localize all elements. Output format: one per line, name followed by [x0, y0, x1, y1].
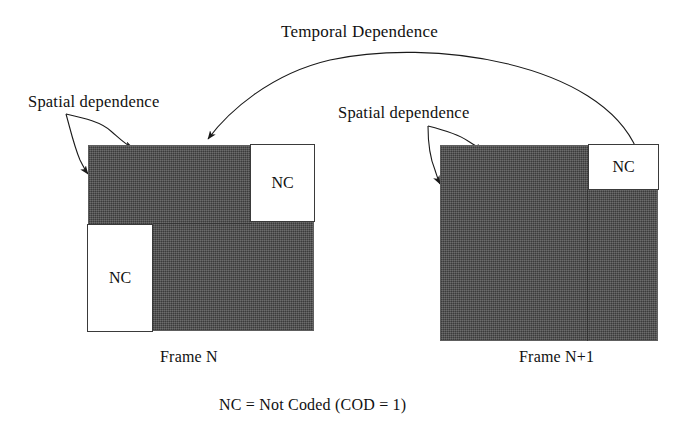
spatial-dependence-left-side-arrow	[66, 114, 88, 174]
frame-n-not-coded-block-bottom-left: NC	[87, 224, 153, 332]
frame-n-plus-1-caption: Frame N+1	[519, 348, 594, 366]
frame-n-horizontal-divider	[153, 223, 251, 224]
spatial-dependence-label-left: Spatial dependence	[28, 92, 159, 112]
temporal-dependence-arrow	[208, 52, 637, 150]
spatial-dependence-left-top-arrow	[66, 114, 133, 148]
spatial-dependence-right-side-arrow	[428, 126, 440, 184]
temporal-dependence-label: Temporal Dependence	[281, 22, 438, 42]
frame-n-block-grid: NC NC	[88, 145, 314, 331]
legend-caption: NC = Not Coded (COD = 1)	[219, 396, 406, 414]
frame-n-plus-1-block-grid: NC	[440, 145, 658, 341]
frame-n-not-coded-block-top-right: NC	[250, 144, 315, 222]
figure-canvas: Temporal Dependence Spatial dependence S…	[0, 0, 688, 434]
frame-n-plus-1-vertical-divider	[587, 190, 588, 341]
spatial-dependence-label-right: Spatial dependence	[338, 103, 469, 123]
frame-n-plus-1-not-coded-block-top-right: NC	[588, 144, 659, 190]
frame-n-caption: Frame N	[160, 348, 218, 366]
